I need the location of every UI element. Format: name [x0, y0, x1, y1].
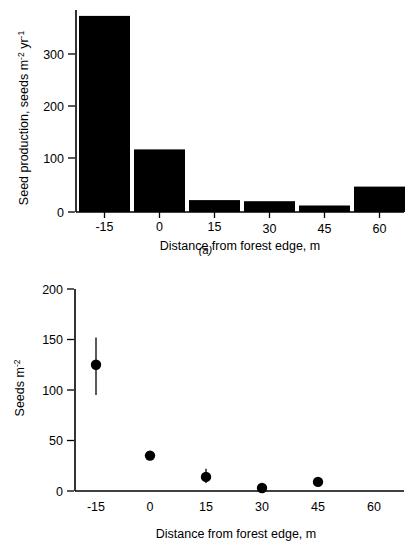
panel-b-ylabel-sup1: -2 [12, 359, 22, 367]
panel-a-ylabel-mid: yr [17, 38, 31, 52]
bar-15 [189, 200, 240, 212]
datapoint-30 [257, 483, 267, 493]
bar-30 [244, 201, 295, 212]
bar-minus15 [79, 16, 130, 212]
panel-a-caption: (a) [0, 244, 411, 256]
panel-a-ylabel-sup2: -1 [16, 31, 26, 39]
panel-b-y-axis-label: Seeds m-2 [12, 359, 27, 416]
bar-45 [299, 206, 350, 213]
marker-30 [257, 483, 267, 493]
svg-text:Seeds m-2: Seeds m-2 [12, 359, 27, 416]
panel-a-y-axis-label: Seed production, seeds m-2 yr-1 [16, 31, 31, 206]
panel-a-xtick-minus15: -15 [95, 220, 113, 234]
panel-b-ytick-50: 50 [49, 434, 63, 448]
panel-a-xtick-0: 0 [156, 220, 163, 234]
panel-b: Seeds m-2 0 50 100 150 200 [0, 268, 411, 559]
marker-45 [313, 477, 323, 487]
panel-b-xtick-30: 30 [255, 500, 269, 514]
marker-minus15 [91, 360, 101, 370]
figure-container: Seed production, seeds m-2 yr-1 0 100 20… [0, 0, 411, 559]
panel-a-ytick-0: 0 [57, 206, 64, 220]
panel-b-ytick-200: 200 [42, 283, 63, 297]
panel-a-xtick-45: 45 [318, 222, 332, 236]
svg-text:Seed production, seeds m-2 yr-: Seed production, seeds m-2 yr-1 [16, 31, 31, 206]
panel-b-x-axis-label: Distance from forest edge, m [156, 527, 316, 541]
panel-b-xtick-45: 45 [311, 500, 325, 514]
marker-0 [145, 450, 155, 460]
datapoint-minus15 [91, 338, 101, 396]
panel-b-ytick-0: 0 [56, 485, 63, 499]
datapoint-15 [201, 469, 211, 483]
bar-chart-panel-a: Seed production, seeds m-2 yr-1 0 100 20… [0, 0, 411, 268]
panel-b-xtick-minus15: -15 [87, 500, 105, 514]
panel-a-ytick-200: 200 [43, 100, 64, 114]
panel-b-ytick-150: 150 [42, 333, 63, 347]
panel-b-xtick-0: 0 [147, 500, 154, 514]
panel-b-ylabel-main: Seeds m [13, 367, 27, 416]
panel-a-ytick-300: 300 [43, 48, 64, 62]
marker-15 [201, 472, 211, 482]
bar-60 [354, 187, 405, 212]
panel-a-xtick-30: 30 [263, 222, 277, 236]
bar-0 [134, 149, 185, 212]
panel-a-ylabel-main: Seed production, seeds m [17, 60, 31, 205]
datapoint-0 [145, 450, 155, 460]
panel-b-ytick-100: 100 [42, 384, 63, 398]
panel-b-xtick-60: 60 [367, 500, 381, 514]
panel-a-xtick-15: 15 [208, 220, 222, 234]
panel-a-xtick-60: 60 [373, 222, 387, 236]
datapoint-45 [313, 477, 323, 487]
scatter-chart-panel-b: Seeds m-2 0 50 100 150 200 [0, 268, 411, 559]
panel-a-ytick-100: 100 [43, 152, 64, 166]
panel-a: Seed production, seeds m-2 yr-1 0 100 20… [0, 0, 411, 268]
panel-b-xtick-15: 15 [199, 500, 213, 514]
